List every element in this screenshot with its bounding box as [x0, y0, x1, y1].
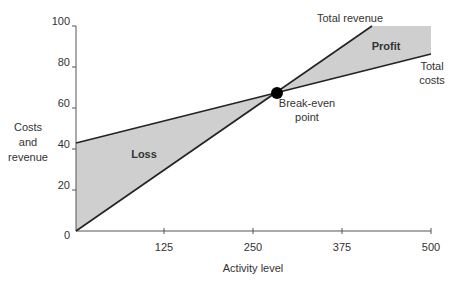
x-tick-label: 500: [422, 241, 440, 253]
break-even-label-line2: point: [295, 111, 319, 123]
y-tick-label: 80: [58, 56, 70, 68]
total-revenue-line: [76, 26, 372, 231]
y-axis-title-line1: Costs: [14, 121, 43, 133]
total-costs-line: [76, 54, 431, 143]
x-tick-label: 250: [244, 241, 262, 253]
break-even-label-line1: Break-even: [279, 97, 335, 109]
y-tick-label: 60: [58, 97, 70, 109]
y-axis-title-line3: revenue: [8, 151, 48, 163]
loss-label: Loss: [131, 148, 157, 160]
y-tick-label: 20: [58, 179, 70, 191]
x-tick-label: 125: [155, 241, 173, 253]
y-tick-label: 40: [58, 138, 70, 150]
profit-label: Profit: [372, 40, 401, 52]
break-even-chart: 100 80 60 40 20 0 125 250 375 500 Activi…: [0, 0, 455, 282]
y-axis-title-line2: and: [19, 136, 37, 148]
x-tick-label: 375: [333, 241, 351, 253]
y-tick-label: 100: [52, 15, 70, 27]
y-tick-label: 0: [64, 229, 70, 241]
total-revenue-label: Total revenue: [317, 12, 383, 24]
x-axis-title: Activity level: [223, 262, 284, 274]
total-costs-label-line2: costs: [419, 74, 445, 86]
total-costs-label-line1: Total: [420, 60, 443, 72]
